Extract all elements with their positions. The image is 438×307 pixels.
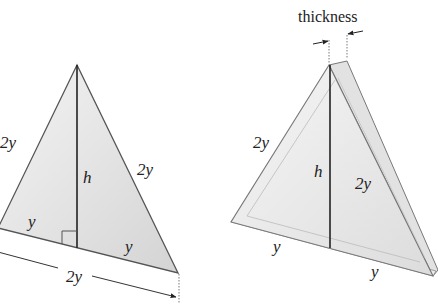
height-label: h — [83, 168, 92, 187]
base-dimension-label: 2y — [66, 267, 83, 286]
plate-base-right-half-label: y — [369, 262, 379, 281]
left-triangle-figure: 2y h 2y y y 2y — [0, 65, 179, 304]
plate-base-left-half-label: y — [271, 237, 281, 256]
right-side-label: 2y — [137, 160, 154, 179]
thickness-label: thickness — [298, 8, 358, 25]
diagram-canvas: 2y h 2y y y 2y thickness 2y h 2y y y — [0, 0, 438, 307]
thickness-arrow-right — [348, 31, 363, 34]
base-dimension-line-left — [0, 252, 58, 268]
plate-right-side-label: 2y — [355, 174, 372, 193]
thickness-arrow-left — [313, 41, 328, 44]
plate-front-face — [231, 65, 433, 276]
plate-left-side-label: 2y — [253, 133, 270, 152]
base-left-half-label: y — [26, 212, 36, 231]
left-side-label: 2y — [0, 133, 17, 152]
base-right-half-label: y — [123, 237, 133, 256]
right-plate-figure: thickness 2y h 2y y y — [231, 8, 438, 281]
base-dimension-line-right — [92, 276, 176, 297]
plate-height-label: h — [314, 162, 323, 181]
